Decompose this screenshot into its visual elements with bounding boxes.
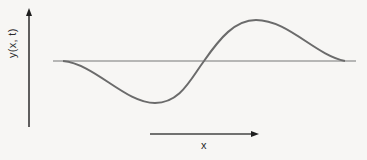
x-axis-label: x <box>201 139 207 151</box>
x-axis-arrow <box>150 131 259 137</box>
y-axis-arrow <box>26 8 32 127</box>
wave-diagram <box>0 0 367 160</box>
y-axis-label: y(x, t) <box>6 18 20 58</box>
